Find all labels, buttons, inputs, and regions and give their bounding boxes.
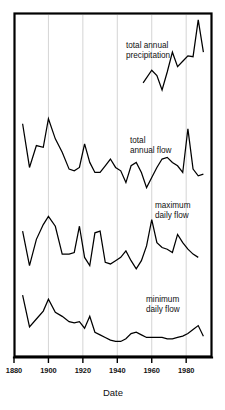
series-labels-group: total annualprecipitationtotalannual flo…	[126, 41, 191, 314]
series-label-total-annual-flow: annual flow	[130, 146, 172, 155]
series-paths-group	[23, 20, 204, 342]
x-axis-title: Date	[103, 387, 123, 398]
x-axis-group: 188019001920194019601980	[6, 358, 212, 376]
x-axis-tick-label: 1940	[109, 366, 125, 375]
x-axis-tick-label: 1920	[75, 366, 91, 375]
series-label-total-annual-precipitation: precipitation	[126, 51, 171, 60]
x-axis-tick-label: 1880	[6, 366, 22, 375]
series-label-maximum-daily-flow: maximum	[155, 201, 191, 210]
series-label-total-annual-precipitation: total annual	[126, 41, 169, 50]
x-axis-tick-label: 1960	[144, 366, 160, 375]
series-label-maximum-daily-flow: daily flow	[155, 211, 189, 220]
plot-frame	[15, 14, 212, 357]
series-label-minimum-daily-flow: minimum	[146, 295, 179, 304]
multi-series-line-chart: 188019001920194019601980 total annualpre…	[0, 0, 225, 410]
x-axis-tick-label: 1900	[40, 366, 56, 375]
series-line-total-annual-flow	[23, 119, 204, 188]
chart-figure: 188019001920194019601980 total annualpre…	[0, 0, 225, 410]
series-line-maximum-daily-flow	[23, 216, 199, 268]
x-axis-tick-label: 1980	[178, 366, 194, 375]
series-label-minimum-daily-flow: daily flow	[146, 305, 180, 314]
series-label-total-annual-flow: total	[130, 136, 146, 145]
